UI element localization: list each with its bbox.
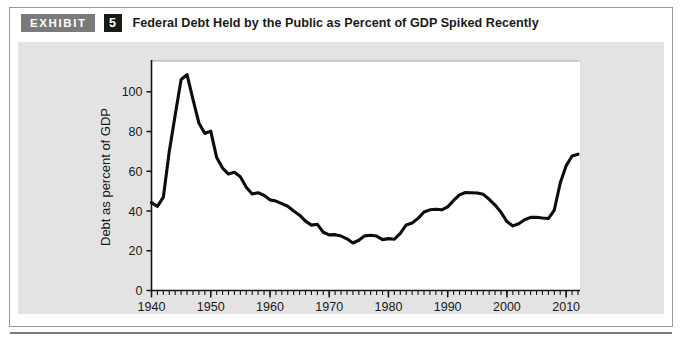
x-tick-label: 1990: [434, 300, 462, 314]
x-tick-label: 2010: [552, 300, 580, 314]
y-tick-label: 40: [129, 205, 143, 219]
y-axis-tick-labels: 020406080100: [122, 85, 143, 298]
y-axis: [147, 60, 152, 291]
x-axis: [152, 291, 581, 298]
bottom-divider: [10, 332, 672, 334]
x-tick-label: 1940: [138, 300, 166, 314]
x-tick-label: 1960: [256, 300, 284, 314]
x-tick-label: 2000: [493, 300, 521, 314]
x-tick-label: 1970: [315, 300, 343, 314]
line-chart: 020406080100 194019501960197019801990200…: [0, 0, 682, 343]
data-series-line: [152, 75, 579, 243]
x-axis-tick-labels: 19401950196019701980199020002010: [138, 300, 581, 314]
y-tick-label: 20: [129, 244, 143, 258]
data-series-group: [152, 75, 579, 243]
x-tick-label: 1980: [375, 300, 403, 314]
y-tick-label: 0: [136, 284, 143, 298]
y-tick-label: 80: [129, 125, 143, 139]
y-axis-title: Debt as percent of GDP: [98, 108, 113, 246]
exhibit-figure: EXHIBIT 5 Federal Debt Held by the Publi…: [0, 0, 682, 343]
x-tick-label: 1950: [197, 300, 225, 314]
y-tick-label: 100: [122, 85, 143, 99]
y-tick-label: 60: [129, 165, 143, 179]
